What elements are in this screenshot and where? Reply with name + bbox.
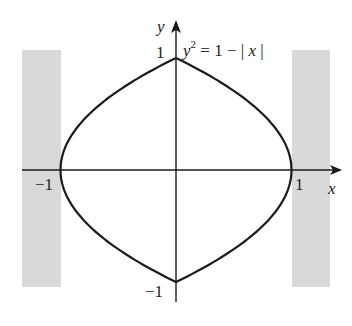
eq-rest: = 1 − <box>196 41 241 60</box>
equation-label: y2 = 1 − | x | <box>183 40 264 59</box>
eq-bar-right: | <box>260 41 263 60</box>
eq-x: x <box>244 41 260 60</box>
diagram-canvas <box>0 0 352 326</box>
tick-y-pos: 1 <box>156 44 165 61</box>
shaded-region-left <box>22 50 61 287</box>
y-axis-label: y <box>157 18 165 35</box>
shaded-region-right <box>292 50 330 287</box>
eq-exp: 2 <box>191 38 197 50</box>
tick-x-neg: −1 <box>35 176 53 193</box>
tick-y-neg: −1 <box>145 283 163 300</box>
eq-y: y <box>183 41 191 60</box>
tick-x-pos: 1 <box>295 176 304 193</box>
x-axis-label: x <box>328 180 336 197</box>
